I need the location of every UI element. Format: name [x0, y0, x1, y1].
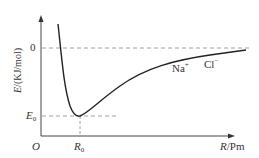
zero-tick-label: 0: [30, 42, 36, 53]
energy-curve-chart: [0, 0, 259, 158]
potential-energy-curve: [58, 24, 246, 116]
e0-subscript: 0: [33, 115, 37, 123]
x-axis-symbol: R: [220, 140, 227, 152]
na-charge: +: [185, 61, 189, 69]
y-axis-symbol: E: [12, 87, 23, 93]
e0-tick-label: E0: [26, 110, 36, 123]
r0-subscript: 0: [81, 146, 85, 154]
na-ion-label: Na+: [172, 62, 189, 74]
y-axis-arrow-icon: [39, 15, 44, 22]
y-axis-unit: /(KJ/mol): [12, 48, 23, 87]
x-axis-arrow-icon: [228, 134, 235, 139]
x-axis-unit: /Pm: [227, 140, 245, 152]
cl-ion-label: Cl−: [204, 58, 218, 70]
na-symbol: Na: [172, 62, 185, 74]
origin-label: O: [32, 141, 40, 152]
y-axis-label: E/(KJ/mol): [13, 48, 23, 93]
x-axis-label: R/Pm: [220, 141, 244, 152]
cl-charge: −: [214, 57, 218, 65]
e0-symbol: E: [26, 109, 33, 121]
r0-symbol: R: [74, 140, 81, 152]
r0-tick-label: R0: [74, 141, 84, 154]
cl-symbol: Cl: [204, 58, 214, 70]
